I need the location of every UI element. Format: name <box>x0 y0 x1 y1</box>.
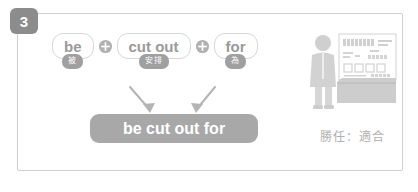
term-gloss-badge: 被 <box>62 54 83 69</box>
plus-circle-icon <box>195 39 210 54</box>
result-phrase-pill[interactable]: be cut out for <box>90 114 258 143</box>
formula-term-be[interactable]: be 被 <box>52 33 94 69</box>
term-gloss-badge: 安排 <box>139 54 169 69</box>
formula-row: be 被 cut out 安排 for 為 <box>52 33 258 69</box>
formula-term-for[interactable]: for 為 <box>214 33 258 69</box>
step-number-badge: 3 <box>10 8 38 34</box>
flashcard-screen: 3 be 被 cut out 安排 for <box>0 0 418 192</box>
term-gloss-badge: 為 <box>225 54 246 69</box>
illustration-caption: 勝任：適合 <box>302 127 402 144</box>
shopkeeper-behind-counter-illustration <box>306 29 398 113</box>
result-phrase-text: be cut out for <box>123 120 225 138</box>
plus-circle-icon <box>98 39 113 54</box>
formula-term-cut-out[interactable]: cut out 安排 <box>117 33 191 69</box>
